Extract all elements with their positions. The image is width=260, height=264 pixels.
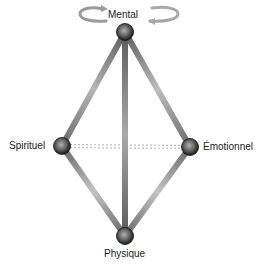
label-spirituel: Spirituel — [9, 141, 45, 151]
edge-mental-emotionnel — [125, 32, 190, 147]
edge-spirituel-physique — [62, 146, 125, 236]
label-emotionnel: Émotionnel — [203, 142, 253, 152]
node-physique-sphere — [117, 228, 134, 245]
label-physique: Physique — [104, 249, 145, 259]
node-emotionnel-sphere — [182, 139, 199, 156]
label-mental: Mental — [108, 10, 138, 20]
diagram-canvas: Mental Spirituel Émotionnel Physique — [0, 0, 260, 264]
edge-emotionnel-physique — [125, 147, 190, 236]
edge-mental-spirituel — [62, 32, 125, 146]
diagram-svg — [0, 0, 260, 264]
node-spirituel-sphere — [54, 138, 71, 155]
node-mental-sphere — [117, 24, 134, 41]
